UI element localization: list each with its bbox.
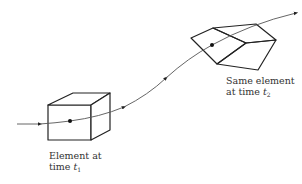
- material-point-t2: [210, 43, 214, 47]
- polyhedron-element-t2: [191, 24, 276, 70]
- material-point-t1: [68, 119, 72, 123]
- label-element-t2: Same element at time t2: [226, 75, 295, 100]
- label-t2-line1: Same element: [226, 75, 295, 86]
- label-t1-line1: Element at: [49, 150, 102, 161]
- label-element-t1: Element at time t1: [49, 150, 102, 175]
- cube-element-t1: [48, 93, 110, 140]
- label-t2-line2: at time t2: [226, 86, 295, 100]
- label-t1-line2: time t1: [49, 161, 102, 175]
